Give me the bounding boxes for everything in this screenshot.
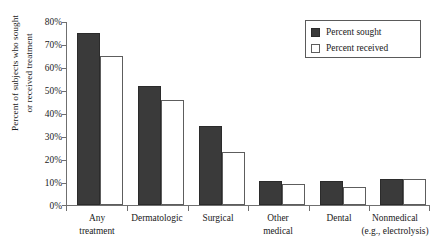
y-tick-mark <box>62 160 67 161</box>
bar-received <box>222 152 245 205</box>
y-tick-label: 50% <box>26 86 62 96</box>
y-tick-mark <box>62 114 67 115</box>
y-tick-label: 30% <box>26 132 62 142</box>
y-tick-mark <box>62 183 67 184</box>
bar-chart: Percent of subjects who sought or receiv… <box>0 0 436 251</box>
y-tick-label: 80% <box>26 17 62 27</box>
x-tick-mark <box>188 206 189 211</box>
legend-label: Percent sought <box>326 27 381 38</box>
legend: Percent sought Percent received <box>305 20 421 58</box>
x-category-label-line: medical <box>238 225 318 238</box>
bar-sought <box>138 86 161 205</box>
bar-received <box>282 184 305 205</box>
y-tick-mark <box>62 137 67 138</box>
x-category-label-line: treatment <box>57 225 137 238</box>
x-category-label: Nonmedical (e.g., electrolysis) <box>354 212 436 237</box>
y-tick-mark <box>62 68 67 69</box>
y-tick-label: 20% <box>26 155 62 165</box>
bar-received <box>161 100 184 205</box>
y-tick-label: 40% <box>26 109 62 119</box>
y-tick-label: 70% <box>26 40 62 50</box>
legend-swatch-sought-icon <box>311 28 320 37</box>
bar-sought <box>380 179 403 205</box>
x-tick-mark <box>127 206 128 211</box>
legend-label: Percent received <box>326 43 388 54</box>
bar-sought <box>320 181 343 205</box>
y-tick-mark <box>62 45 67 46</box>
x-category-label-line: (e.g., electrolysis) <box>354 225 436 238</box>
bar-sought <box>259 181 282 205</box>
y-tick-label: 0% <box>26 201 62 211</box>
y-tick-label: 10% <box>26 178 62 188</box>
bar-sought <box>77 33 100 205</box>
y-tick-mark <box>62 91 67 92</box>
bar-received <box>343 187 366 205</box>
x-category-label-line: Nonmedical <box>354 212 436 225</box>
bar-received <box>403 179 426 205</box>
legend-item-sought: Percent sought <box>311 25 415 39</box>
x-tick-mark <box>66 206 67 211</box>
legend-item-received: Percent received <box>311 41 415 55</box>
x-tick-mark <box>309 206 310 211</box>
y-tick-mark <box>62 22 67 23</box>
bar-received <box>100 56 123 205</box>
x-tick-mark <box>369 206 370 211</box>
x-tick-mark <box>248 206 249 211</box>
y-axis-title-line-1: Percent of subjects who sought <box>9 0 23 168</box>
y-tick-label: 60% <box>26 63 62 73</box>
bar-sought <box>199 126 222 205</box>
legend-swatch-received-icon <box>311 44 320 53</box>
x-tick-mark <box>429 206 430 211</box>
